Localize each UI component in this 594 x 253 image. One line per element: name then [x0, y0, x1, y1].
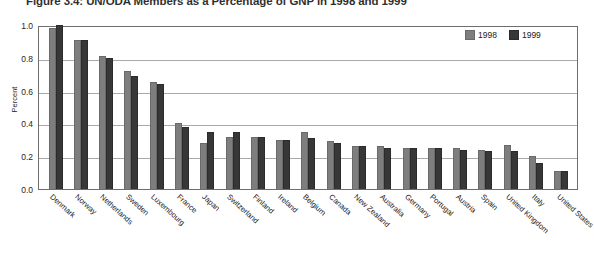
x-axis-tick: Denmark [42, 191, 67, 253]
x-axis-tick: Germany [397, 191, 422, 253]
chart-plot-area [38, 26, 578, 190]
bar-group [372, 27, 397, 189]
x-axis-tick: Portugal [423, 191, 448, 253]
x-axis-tick: United Kingdom [499, 191, 524, 253]
bar-1998 [124, 71, 131, 189]
bar-1998 [99, 56, 106, 189]
bar-1999 [435, 148, 442, 189]
x-axis-tick: Belgium [296, 191, 321, 253]
bar-1999 [106, 58, 113, 189]
bar-group [195, 27, 220, 189]
bar-1999 [359, 146, 366, 189]
figure-title: Figure 3.4: UN/ODA Members as a Percenta… [26, 0, 407, 7]
legend-item: 1999 [509, 30, 541, 40]
bar-1999 [561, 171, 568, 189]
x-axis-tick: New Zealand [347, 191, 372, 253]
x-axis-tick: Sweden [118, 191, 143, 253]
bar-1999 [182, 127, 189, 189]
bar-1998 [327, 141, 334, 189]
x-axis-tick: Japan [194, 191, 219, 253]
legend-item: 1998 [465, 30, 497, 40]
x-axis-tick: Switzerland [220, 191, 245, 253]
x-axis-tick-label: Italy [530, 192, 546, 208]
x-axis-tick: Italy [524, 191, 549, 253]
x-axis-tick: Ireland [270, 191, 295, 253]
y-axis-tick-label: 0.6 [21, 87, 33, 97]
x-axis-tick: Finland [245, 191, 270, 253]
bar-1999 [283, 140, 290, 189]
bar-group [68, 27, 93, 189]
bar-group [169, 27, 194, 189]
bar-1999 [157, 84, 164, 189]
bar-1998 [251, 137, 258, 189]
chart-legend: 19981999 [462, 29, 544, 41]
bar-1998 [49, 28, 56, 189]
bar-group [473, 27, 498, 189]
bar-1999 [308, 138, 315, 189]
bar-1999 [207, 132, 214, 189]
bar-1999 [131, 76, 138, 189]
bar-group [296, 27, 321, 189]
bar-group [549, 27, 574, 189]
legend-label: 1999 [522, 30, 541, 40]
bar-1998 [504, 145, 511, 189]
bar-1999 [334, 143, 341, 189]
y-axis-tick-label: 0.2 [21, 152, 33, 162]
bar-1999 [410, 148, 417, 189]
bar-group [321, 27, 346, 189]
bar-1999 [485, 151, 492, 189]
bar-1998 [301, 132, 308, 189]
bar-1999 [56, 25, 63, 189]
bar-1998 [453, 148, 460, 189]
y-axis-tick-label: 1.0 [21, 21, 33, 31]
bar-1998 [276, 140, 283, 189]
y-axis-tick-label: 0.0 [21, 185, 33, 195]
bar-group [422, 27, 447, 189]
x-axis-tick-label: United States [555, 192, 594, 229]
bar-1998 [175, 123, 182, 189]
bar-group [43, 27, 68, 189]
x-axis: DenmarkNorwayNetherlandsSwedenLuxembourg… [38, 191, 578, 253]
x-axis-tick-label: Spain [479, 192, 499, 212]
bar-1998 [200, 143, 207, 189]
bar-1999 [233, 132, 240, 189]
bar-series-container [39, 27, 577, 189]
bar-1998 [150, 82, 157, 189]
bar-group [498, 27, 523, 189]
bar-1999 [460, 150, 467, 189]
x-axis-tick-label: Japan [200, 192, 221, 213]
x-axis-tick: Spain [473, 191, 498, 253]
bar-group [397, 27, 422, 189]
x-axis-tick: Luxembourg [144, 191, 169, 253]
bar-1998 [529, 156, 536, 189]
bar-1998 [428, 148, 435, 189]
y-axis-tick-label: 0.8 [21, 54, 33, 64]
x-axis-tick: Norway [67, 191, 92, 253]
bar-group [119, 27, 144, 189]
x-axis-tick: Canada [321, 191, 346, 253]
bar-1998 [377, 146, 384, 189]
y-axis-tick-label: 0.4 [21, 119, 33, 129]
legend-swatch-1998 [465, 30, 475, 40]
bar-group [271, 27, 296, 189]
x-axis-tick: Austria [448, 191, 473, 253]
x-axis-tick: Australia [372, 191, 397, 253]
bar-1998 [74, 40, 81, 189]
legend-label: 1998 [478, 30, 497, 40]
bar-group [144, 27, 169, 189]
bar-group [523, 27, 548, 189]
bar-1998 [226, 137, 233, 189]
x-axis-tick: United States [550, 191, 575, 253]
bar-1998 [352, 146, 359, 189]
bar-1999 [258, 137, 265, 189]
bar-1998 [478, 150, 485, 189]
bar-group [346, 27, 371, 189]
bar-group [245, 27, 270, 189]
bar-1999 [536, 163, 543, 189]
legend-swatch-1999 [509, 30, 519, 40]
bar-group [94, 27, 119, 189]
bar-1999 [511, 151, 518, 189]
x-axis-tick: France [169, 191, 194, 253]
y-axis-title: Percent [10, 70, 19, 130]
bar-group [448, 27, 473, 189]
